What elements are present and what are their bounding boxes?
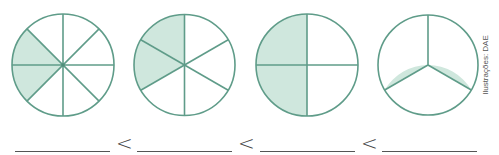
answer-blank-2[interactable]: [137, 151, 232, 152]
circle-eighths: [12, 14, 114, 116]
answer-blank-4[interactable]: [382, 151, 477, 152]
illustration-credit: Ilustrações: DAE: [480, 35, 492, 95]
circle-sixths: [134, 15, 235, 116]
fraction-figure: Ilustrações: DAE < < <: [0, 0, 499, 155]
less-than-sign-3: <: [361, 133, 378, 153]
answer-blank-1[interactable]: [15, 151, 110, 152]
less-than-sign-1: <: [116, 133, 133, 153]
circle-fourths: [256, 14, 358, 116]
answer-blank-3[interactable]: [260, 151, 355, 152]
less-than-sign-2: <: [238, 133, 255, 153]
circle-thirds: [378, 15, 478, 115]
